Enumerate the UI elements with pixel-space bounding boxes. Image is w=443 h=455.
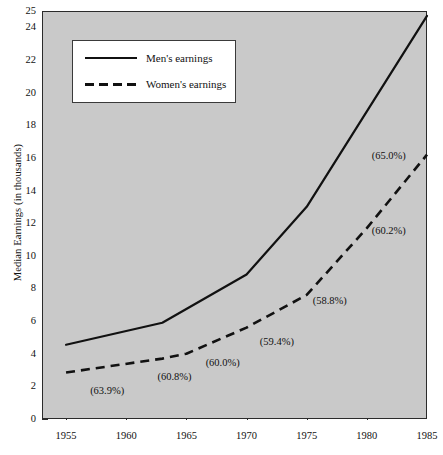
y-axis-tick-label: 24 [26,22,37,33]
x-axis-tick-label: 1975 [296,431,317,442]
annotation-ratio-1985: (65.0%) [372,151,406,162]
y-axis-tick-label: 6 [31,316,36,327]
y-axis-tick-label: 20 [26,87,37,98]
y-axis-tick-label: 14 [26,185,37,196]
annotation-ratio-1970: (59.4%) [260,337,294,348]
x-axis-tick-label: 1965 [176,431,197,442]
y-axis-tick-label: 16 [26,153,37,164]
x-axis-tick-label: 1980 [356,431,377,442]
legend-item-mens: Men's earnings [73,49,235,67]
x-axis-tick-label: 1985 [417,431,438,442]
chart-legend: Men's earnings Women's earnings [72,40,236,103]
solid-line-swatch-icon [85,52,137,64]
earnings-line-chart: Median Earnings (in thousands) 024681012… [0,0,443,455]
x-axis-tick-label: 1970 [236,431,257,442]
x-axis-tick-label: 1955 [56,431,77,442]
legend-label-womens: Women's earnings [146,78,226,90]
y-axis-tick-label: 12 [26,218,37,229]
legend-item-womens: Women's earnings [73,75,235,93]
legend-label-mens: Men's earnings [146,52,212,64]
y-axis-tick-label: 22 [26,55,37,66]
y-axis-title: Median Earnings (in thousands) [12,93,23,333]
annotation-ratio-1980: (60.2%) [372,226,406,237]
y-axis-tick-label: 18 [26,120,37,131]
y-axis-tick-mark [42,419,48,420]
y-axis-tick-label: 8 [31,283,36,294]
x-axis-tick-label: 1960 [116,431,137,442]
y-axis-tick-label: 4 [31,348,36,359]
annotation-ratio-1965: (60.0%) [206,358,240,369]
dashed-line-swatch-icon [85,78,137,90]
annotation-ratio-1955: (63.9%) [90,386,124,397]
annotation-ratio-1975: (58.8%) [313,296,347,307]
y-axis-tick-label: 2 [31,381,36,392]
y-axis-tick-label: 10 [26,251,37,262]
y-axis-tick-label: 0 [31,414,36,425]
annotation-ratio-1963: (60.8%) [158,372,192,383]
y-axis-tick-label: 25 [26,6,37,17]
